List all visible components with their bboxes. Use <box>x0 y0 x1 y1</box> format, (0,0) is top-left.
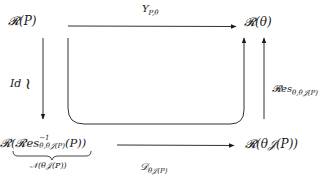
underbrace <box>13 151 91 160</box>
edge-top-label: ΥP,θ <box>142 4 158 14</box>
node-top-right: 𝓡(θ) <box>244 16 272 28</box>
edge-left-label: Id ≀ <box>10 74 31 90</box>
underbrace-label-text: 𝒩(θ𝒥(P)) <box>30 161 67 170</box>
node-bottom-left-suffix: (P)) <box>65 136 86 150</box>
edge-left-label-text: Id <box>10 77 21 90</box>
res-inverse-sub: θ,θ𝒥(P) <box>39 143 65 151</box>
loop-arrow <box>68 38 244 124</box>
node-top-left: 𝓡(P) <box>8 15 36 27</box>
bottom-arrow <box>117 145 234 146</box>
underbrace-label: 𝒩(θ𝒥(P)) <box>30 162 67 170</box>
edge-bottom-label-sub: θ𝒥(P) <box>148 167 167 175</box>
edge-right-label-main: 𝓡es <box>272 83 292 94</box>
edge-bottom-label-main: 𝒟 <box>140 161 148 172</box>
top-arrow <box>68 26 236 27</box>
res-inverse-scripts: −1θ,θ𝒥(P) <box>39 135 65 150</box>
node-bottom-left: 𝓡(𝓡es−1θ,θ𝒥(P)(P)) <box>0 136 86 151</box>
node-bottom-left-prefix: 𝓡(𝓡es <box>0 136 39 150</box>
edge-bottom-label: 𝒟θ𝒥(P) <box>140 162 167 172</box>
node-bottom-right-label: 𝓡(θ𝒥(P)) <box>245 137 298 151</box>
edge-top-label-sub: P,θ <box>149 9 159 17</box>
node-bottom-right: 𝓡(θ𝒥(P)) <box>245 138 298 150</box>
node-top-left-label: 𝓡(P) <box>8 14 36 28</box>
edge-right-label: 𝓡esθ,θ𝒥(P) <box>272 84 318 94</box>
isomorphism-symbol: ≀ <box>25 74 31 93</box>
edge-right-label-sub: θ,θ𝒥(P) <box>292 89 318 97</box>
edge-top-label-main: Υ <box>142 3 149 14</box>
node-top-right-label: 𝓡(θ) <box>244 15 272 29</box>
